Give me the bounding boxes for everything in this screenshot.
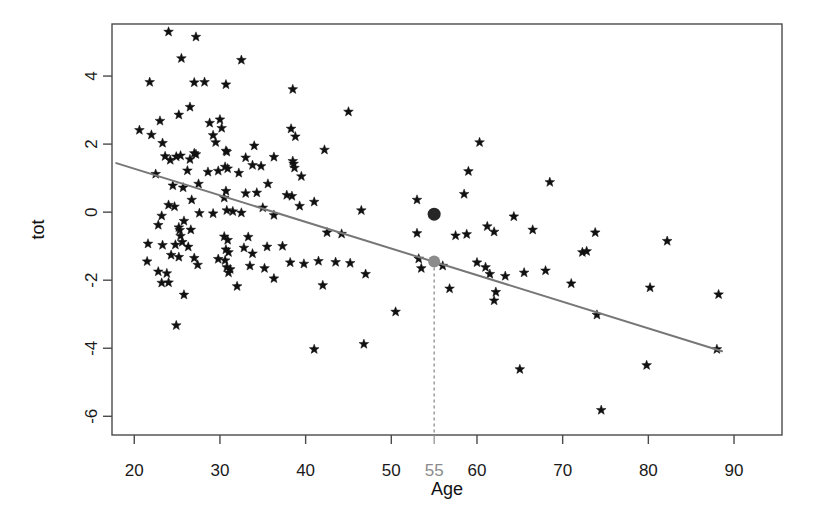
x-tick-label: 70 <box>553 461 572 480</box>
y-axis-title: tot <box>28 219 48 239</box>
y-tick-label: -2 <box>83 273 102 288</box>
x-tick-label: 50 <box>382 461 401 480</box>
y-tick-label: 4 <box>83 71 102 80</box>
y-tick-label: 2 <box>83 139 102 148</box>
fitted-point <box>428 255 440 267</box>
scatter-plot-figure: 420-2-4-6 203040506070809055 Agetot <box>0 0 824 527</box>
x-axis-title: Age <box>431 479 463 499</box>
plot-canvas: 420-2-4-6 203040506070809055 Agetot <box>0 0 824 527</box>
figure-background <box>0 0 824 527</box>
x-tick-label: 80 <box>639 461 658 480</box>
observed-point <box>428 208 441 221</box>
x-tick-label-55: 55 <box>425 461 444 480</box>
y-tick-label: 0 <box>83 207 102 216</box>
x-tick-label: 20 <box>125 461 144 480</box>
x-tick-label: 90 <box>725 461 744 480</box>
x-tick-label: 30 <box>210 461 229 480</box>
y-tick-label: -6 <box>83 409 102 424</box>
x-tick-label: 60 <box>468 461 487 480</box>
x-tick-label: 40 <box>296 461 315 480</box>
y-tick-label: -4 <box>83 341 102 356</box>
